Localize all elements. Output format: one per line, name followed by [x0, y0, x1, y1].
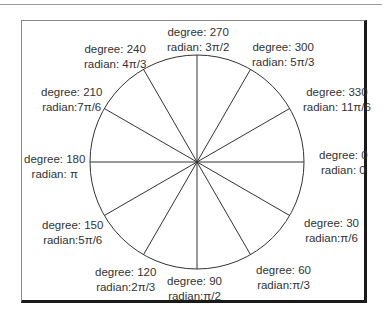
radian-label: radian:5π/6 [42, 233, 103, 248]
radian-label: radian: 5π/3 [252, 55, 314, 70]
label-deg-270: degree: 270 radian: 3π/2 [167, 25, 229, 55]
spoke-60 [197, 162, 251, 255]
label-deg-240: degree: 240 radian: 4π/3 [84, 42, 146, 72]
label-deg-30: degree: 30 radian:π/6 [304, 216, 359, 246]
degree-label: degree: 330 [303, 85, 371, 100]
degree-label: degree: 30 [304, 216, 359, 231]
radian-label: radian: 11π/6 [303, 100, 371, 115]
angle-spokes [90, 55, 304, 269]
label-deg-150: degree: 150 radian:5π/6 [42, 218, 103, 248]
radian-label: radian:2π/3 [95, 280, 156, 295]
label-deg-180: degree: 180 radian: π [24, 152, 85, 182]
spoke-150 [104, 162, 197, 216]
radian-label: radian: 3π/2 [167, 40, 229, 55]
label-deg-330: degree: 330 radian: 11π/6 [303, 85, 371, 115]
degree-label: degree: 120 [95, 265, 156, 280]
degree-label: degree: 270 [167, 25, 229, 40]
radian-label: radian: π [24, 167, 85, 182]
spoke-120 [144, 162, 198, 255]
spoke-300 [197, 69, 251, 162]
degree-label: degree: 150 [42, 218, 103, 233]
radian-label: radian:π/3 [256, 278, 311, 293]
degree-label: degree: 300 [252, 40, 314, 55]
spoke-240 [144, 69, 198, 162]
label-deg-120: degree: 120 radian:2π/3 [95, 265, 156, 295]
degree-label: degree: 60 [256, 263, 311, 278]
spoke-330 [197, 109, 290, 163]
spoke-30 [197, 162, 290, 216]
radian-label: radian: 4π/3 [84, 57, 146, 72]
label-deg-0: degree: 0 radian: 0 [319, 148, 368, 178]
radian-label: radian:π/6 [304, 231, 359, 246]
radian-label: radian:7π/6 [41, 100, 102, 115]
radian-label: radian:π/2 [167, 289, 222, 304]
label-deg-90: degree: 90 radian:π/2 [167, 274, 222, 304]
degree-label: degree: 210 [41, 85, 102, 100]
degree-label: degree: 0 [319, 148, 368, 163]
label-deg-210: degree: 210 radian:7π/6 [41, 85, 102, 115]
degree-label: degree: 90 [167, 274, 222, 289]
spoke-210 [104, 109, 197, 163]
degree-label: degree: 180 [24, 152, 85, 167]
label-deg-60: degree: 60 radian:π/3 [256, 263, 311, 293]
degree-label: degree: 240 [84, 42, 146, 57]
radian-label: radian: 0 [319, 163, 368, 178]
label-deg-300: degree: 300 radian: 5π/3 [252, 40, 314, 70]
